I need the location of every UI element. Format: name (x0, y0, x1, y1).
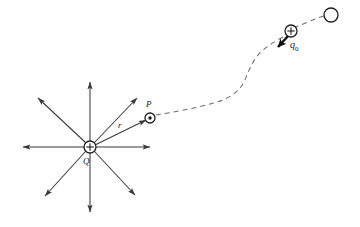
field-line-southeast (95, 152, 136, 196)
test-charge-subscript: 0 (295, 45, 299, 53)
field-point-symbol (145, 113, 155, 123)
field-point-label: P (145, 99, 152, 109)
diagram-canvas: Q P r q0 (0, 0, 360, 227)
radius-label: r (118, 120, 122, 130)
test-charge-label: q0 (290, 39, 299, 53)
velocity-arrow (278, 35, 289, 47)
end-position-marker (324, 8, 338, 22)
field-line-northeast (95, 98, 138, 143)
field-line-southwest (45, 152, 86, 197)
test-charge-symbol (285, 25, 297, 37)
source-charge-label: Q (83, 156, 90, 166)
source-charge-symbol (84, 141, 96, 153)
test-charge-trajectory (156, 16, 324, 115)
field-line-northwest (38, 98, 86, 143)
physics-diagram-figure: Q P r q0 (0, 0, 360, 227)
